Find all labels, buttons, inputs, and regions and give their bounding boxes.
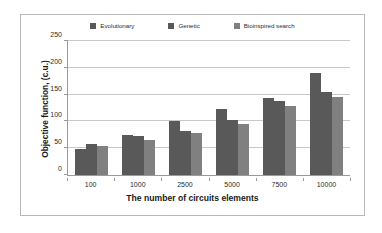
bar[interactable] [285, 106, 296, 175]
x-axis-tick-mark [303, 178, 304, 181]
bar[interactable] [274, 101, 285, 175]
x-axis-label: The number of circuits elements [21, 193, 364, 203]
x-axis-tick-mark [67, 178, 68, 181]
bar[interactable] [169, 121, 180, 175]
y-axis-tick-label: 200 [50, 57, 62, 64]
bar-group [256, 41, 303, 175]
bar[interactable] [263, 98, 274, 175]
x-axis-tick-label: 7500 [256, 178, 303, 190]
x-axis-tick-label: 1000 [114, 178, 161, 190]
y-axis-tick-mark [64, 67, 68, 68]
legend-swatch-icon [168, 23, 174, 29]
y-axis-tick-mark [64, 174, 68, 175]
legend-entry[interactable]: Genetic [168, 23, 199, 29]
bar-group [162, 41, 209, 175]
legend-entry[interactable]: Bioinspired search [234, 23, 295, 29]
bar[interactable] [332, 97, 343, 175]
y-axis-tick-label: 150 [50, 84, 62, 91]
legend-label: Evolutionary [100, 23, 134, 29]
y-axis-tick-mark [64, 120, 68, 121]
bar[interactable] [191, 133, 202, 175]
bar[interactable] [321, 92, 332, 175]
bar[interactable] [216, 109, 227, 175]
x-axis-tick-label: 10000 [303, 178, 350, 190]
bar[interactable] [75, 149, 86, 175]
x-axis-tick-mark [256, 178, 257, 181]
x-axis-tick-labels: 100100025005000750010000 [67, 178, 350, 190]
x-axis-tick-label: 5000 [209, 178, 256, 190]
bar[interactable] [122, 135, 133, 175]
x-axis-tick-mark [209, 178, 210, 181]
legend-label: Bioinspired search [244, 23, 295, 29]
bar-group [115, 41, 162, 175]
bar[interactable] [227, 120, 238, 175]
bar-group [68, 41, 115, 175]
bar[interactable] [97, 146, 108, 175]
x-axis-tick-mark [350, 178, 351, 181]
y-axis-tick-mark [64, 147, 68, 148]
bars-layer [68, 41, 350, 175]
bar[interactable] [180, 131, 191, 175]
y-axis-tick-label: 0 [58, 165, 62, 172]
bar-group [209, 41, 256, 175]
legend-swatch-icon [234, 23, 240, 29]
bar[interactable] [144, 140, 155, 175]
x-axis-tick-mark [114, 178, 115, 181]
x-axis-tick-label: 100 [67, 178, 114, 190]
chart-legend: EvolutionaryGeneticBioinspired search [21, 18, 364, 34]
y-axis-label: Objective function, (c.u.) [40, 49, 50, 169]
y-axis-tick-label: 50 [54, 138, 62, 145]
legend-swatch-icon [90, 23, 96, 29]
bar[interactable] [133, 136, 144, 175]
y-axis-tick-mark [64, 94, 68, 95]
x-axis-tick-mark [161, 178, 162, 181]
y-axis-tick-mark [64, 40, 68, 41]
plot-area: 050100150200250 [67, 41, 350, 176]
bar[interactable] [86, 144, 97, 175]
x-axis-tick-label: 2500 [161, 178, 208, 190]
bar-group [303, 41, 350, 175]
y-axis-tick-label: 250 [50, 31, 62, 38]
bar[interactable] [310, 73, 321, 175]
y-axis-tick-label: 100 [50, 111, 62, 118]
chart-figure: EvolutionaryGeneticBioinspired search Ob… [20, 14, 365, 216]
legend-label: Genetic [178, 23, 199, 29]
y-axis-label-wrapper: Objective function, (c.u.) [29, 41, 43, 176]
bar[interactable] [238, 124, 249, 175]
legend-entry[interactable]: Evolutionary [90, 23, 134, 29]
